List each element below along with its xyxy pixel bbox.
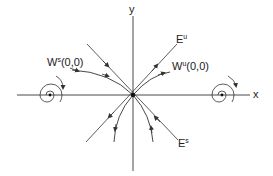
stable-manifold-label: Ws(0,0) xyxy=(47,56,84,68)
unstable-manifold-label: Wu(0,0) xyxy=(172,60,209,72)
x-axis-label: x xyxy=(253,88,259,100)
ws-lower-arrow xyxy=(151,127,152,133)
y-axis-label: y xyxy=(129,3,135,15)
es-arrow-lower xyxy=(155,117,160,122)
right-spiral xyxy=(212,76,236,102)
saddle-point xyxy=(131,93,135,97)
stable-eigenspace-line xyxy=(87,44,178,140)
eu-arrow-upper xyxy=(152,65,157,71)
eu-arrow-lower xyxy=(109,112,114,117)
unstable-manifold-upper-curve xyxy=(133,72,170,95)
right-spiral-arrow xyxy=(228,76,236,86)
es-arrow-upper xyxy=(103,61,108,66)
left-spiral xyxy=(40,76,63,102)
phase-portrait-diagram: x y Eu Es Wu(0,0) Ws(0,0) xyxy=(0,0,273,176)
stable-manifold-lower-curve xyxy=(133,95,153,142)
stable-eigenspace-label: Es xyxy=(178,137,189,149)
unstable-eigenspace-label: Eu xyxy=(176,33,187,45)
